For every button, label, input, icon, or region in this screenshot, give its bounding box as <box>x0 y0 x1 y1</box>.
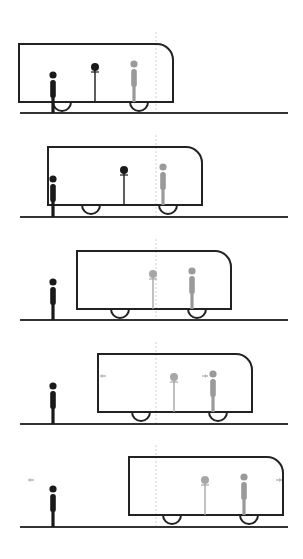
panels <box>19 32 288 529</box>
platform-observer <box>49 278 56 320</box>
lamp-light-icon <box>201 476 209 484</box>
wheel-2 <box>188 309 206 318</box>
lamp-light-icon <box>120 166 128 174</box>
lamp-on-pole <box>170 373 178 412</box>
signal-arrowhead <box>28 478 31 482</box>
train-observer <box>240 473 247 515</box>
train-observer-legs <box>132 85 135 102</box>
train-observer <box>209 370 216 412</box>
wheel-1 <box>163 515 181 524</box>
light-signal-right-icon <box>202 374 208 378</box>
panel-3 <box>20 239 288 322</box>
train-observer-body <box>241 482 247 500</box>
platform-observer-legs <box>51 303 54 320</box>
train-car <box>98 354 252 412</box>
wheel-2 <box>159 205 177 214</box>
train-observer-legs <box>211 395 214 412</box>
platform-observer-legs <box>51 510 54 527</box>
train-car <box>129 457 283 515</box>
wheel-1 <box>82 205 100 214</box>
train-observer-legs <box>242 498 245 515</box>
lamp-on-pole <box>201 476 209 515</box>
wheel-2 <box>130 102 148 111</box>
platform-observer-head <box>49 485 56 492</box>
platform-observer-body <box>50 184 56 202</box>
train-observer-head <box>240 473 247 480</box>
panel-2 <box>20 135 288 219</box>
wheel-1 <box>53 102 71 111</box>
train-observer-head <box>188 267 195 274</box>
platform-observer-head <box>49 175 56 182</box>
train-car <box>48 147 202 205</box>
train-observer-head <box>159 163 166 170</box>
signal-arrowhead <box>100 374 103 378</box>
light-signal-left-icon <box>100 374 106 378</box>
wheel-1 <box>111 309 129 318</box>
platform-observer <box>49 485 56 527</box>
panel-1 <box>19 32 288 115</box>
platform-observer-legs <box>51 96 54 113</box>
platform-observer-head <box>49 71 56 78</box>
light-signal-left-icon <box>28 478 34 482</box>
panel-5 <box>20 445 288 529</box>
wheel-2 <box>209 412 227 421</box>
train-observer-head <box>209 370 216 377</box>
platform-observer-head <box>49 278 56 285</box>
platform-observer-body <box>50 494 56 512</box>
train-observer-legs <box>190 292 193 309</box>
diagram-canvas <box>0 0 303 559</box>
train-observer <box>188 267 195 309</box>
train-observer-body <box>189 276 195 294</box>
lamp-light-icon <box>149 270 157 278</box>
lamp-light-icon <box>91 63 99 71</box>
platform-observer-body <box>50 391 56 409</box>
platform-observer-legs <box>51 407 54 424</box>
wheel-1 <box>132 412 150 421</box>
train-observer <box>130 60 137 102</box>
platform-observer-head <box>49 382 56 389</box>
train-observer-body <box>131 69 137 87</box>
train-observer-head <box>130 60 137 67</box>
lamp-light-icon <box>170 373 178 381</box>
platform-observer-body <box>50 287 56 305</box>
train-observer-legs <box>161 188 164 205</box>
wheel-2 <box>240 515 258 524</box>
train-car <box>77 251 231 309</box>
platform-observer <box>49 175 56 217</box>
platform-observer-body <box>50 80 56 98</box>
train-observer-body <box>210 379 216 397</box>
train-observer-body <box>160 172 166 190</box>
panel-4 <box>20 342 288 426</box>
platform-observer <box>49 382 56 424</box>
lamp-on-pole <box>120 166 128 205</box>
signal-arrowhead <box>279 478 282 482</box>
lamp-on-pole <box>91 63 99 102</box>
train-car <box>19 44 173 102</box>
signal-arrowhead <box>205 374 208 378</box>
platform-observer-legs <box>51 200 54 217</box>
train-observer <box>159 163 166 205</box>
light-signal-right-icon <box>276 478 282 482</box>
